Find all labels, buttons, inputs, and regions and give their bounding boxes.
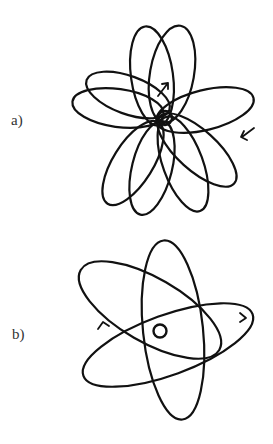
arrow-b-left-icon: [98, 322, 109, 329]
arrow-a-right-icon: [241, 128, 254, 140]
arrow-b-right-icon: [240, 313, 246, 322]
panel-a-rosette: [70, 22, 259, 219]
orbit-b1: [134, 237, 212, 422]
orbit-diagram: [0, 0, 273, 444]
panel-b-orbits: [65, 237, 263, 422]
nucleus-b: [154, 325, 167, 338]
orbit-b3: [73, 286, 263, 404]
